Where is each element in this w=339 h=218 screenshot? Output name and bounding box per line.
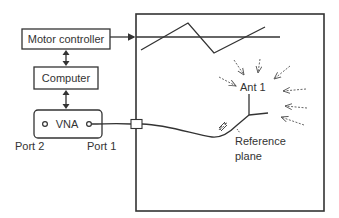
- bidirectional-arrow-icon: [63, 50, 70, 66]
- feedthrough-connector: [131, 120, 142, 129]
- vna-label: VNA: [56, 118, 79, 130]
- port2-label: Port 2: [15, 140, 44, 152]
- antenna-label: Ant 1: [240, 81, 266, 93]
- motor-controller-block: Motor controller: [22, 29, 110, 49]
- port1-label: Port 1: [87, 140, 116, 152]
- antenna-icon: [249, 94, 268, 115]
- bidirectional-arrow-icon: [63, 90, 70, 109]
- computer-label: Computer: [42, 72, 91, 84]
- reference-plane-label-line2: plane: [235, 150, 262, 162]
- chamber-frame: [136, 14, 324, 211]
- measurement-setup-diagram: Motor controller Computer VNA Port 2 Por…: [0, 0, 339, 218]
- computer-block: Computer: [34, 67, 98, 89]
- positioner-zigzag: [141, 23, 265, 53]
- port2-connector-icon: [43, 122, 48, 127]
- port1-connector-icon: [87, 122, 92, 127]
- reference-plane-label-line1: Reference: [235, 135, 286, 147]
- motor-controller-label: Motor controller: [28, 33, 105, 45]
- coax-cable-inside: [142, 115, 249, 137]
